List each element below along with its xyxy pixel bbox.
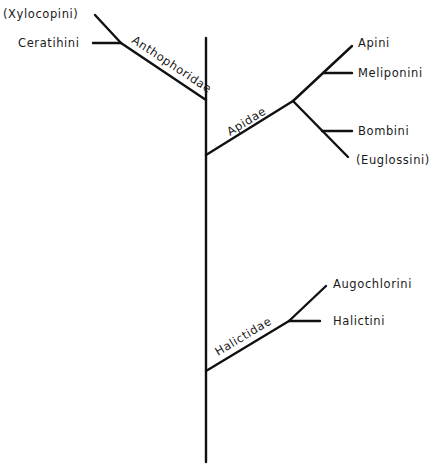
- label-apini: Apini: [358, 36, 390, 50]
- euglossini-branch: [293, 101, 348, 157]
- label-bombini: Bombini: [358, 124, 409, 138]
- label-meliponini: Meliponini: [358, 66, 423, 80]
- apidae-branch: [206, 101, 293, 155]
- augochlorini-branch: [289, 286, 326, 321]
- label-augochlorini: Augochlorini: [333, 277, 412, 291]
- label-xylocopini: (Xylocopini): [3, 7, 78, 21]
- label-euglossini: (Euglossini): [356, 153, 430, 167]
- label-halictini: Halictini: [333, 314, 385, 328]
- label-ceratinini: Ceratihini: [18, 36, 80, 50]
- phylogenetic-tree: (Xylocopini) Ceratihini Apini Meliponini…: [0, 0, 435, 469]
- xylocopini-branch: [95, 15, 121, 43]
- label-anthophoridae: Anthophoridae: [129, 33, 214, 96]
